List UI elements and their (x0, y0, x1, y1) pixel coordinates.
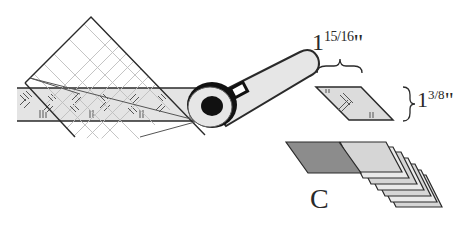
width-whole: 1 (312, 29, 324, 55)
height-unit: " (445, 87, 454, 112)
height-whole: 1 (417, 87, 428, 112)
step-label: C (310, 185, 329, 213)
diagram-canvas (0, 0, 467, 225)
width-brace (317, 59, 362, 73)
diamond-cutting-diagram: 115/16" 13/8" C (0, 0, 467, 225)
acrylic-ruler (0, 0, 210, 160)
height-fraction: 3/8 (428, 87, 445, 102)
width-fraction: 15/16 (324, 29, 353, 44)
rotary-cutter (187, 50, 319, 128)
cutter-hub (201, 96, 223, 116)
ruler-grid (0, 0, 210, 160)
width-measurement-label: 115/16" (312, 30, 363, 54)
height-measurement-label: 13/8" (417, 88, 454, 111)
height-brace (403, 87, 415, 121)
diamond-piece (316, 87, 393, 120)
width-unit: " (353, 29, 363, 55)
